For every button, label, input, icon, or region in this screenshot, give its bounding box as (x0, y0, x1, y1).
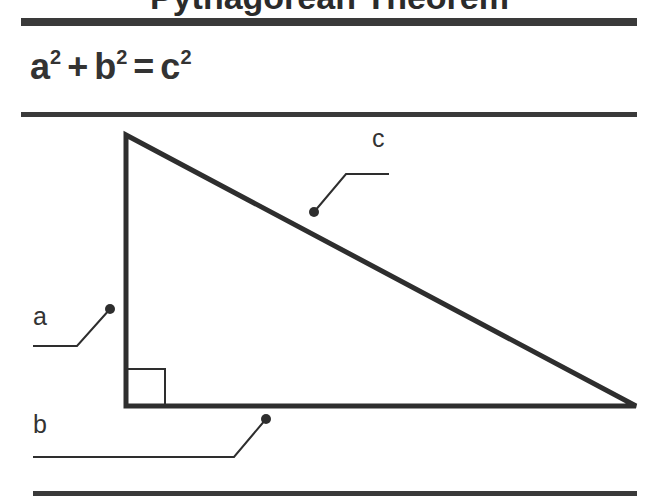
triangle-shape (126, 135, 636, 406)
leader-dot-b (261, 414, 271, 424)
label-hypotenuse-c: c (372, 124, 385, 153)
leader-line-b (33, 419, 266, 457)
leader-dot-a (105, 304, 115, 314)
label-leg-b: b (33, 410, 47, 439)
label-leg-a: a (33, 302, 47, 331)
bottom-divider (33, 491, 637, 496)
leader-line-c (314, 174, 389, 212)
right-triangle-diagram (0, 0, 650, 501)
leader-dot-c (309, 207, 319, 217)
right-angle-marker (126, 369, 165, 406)
